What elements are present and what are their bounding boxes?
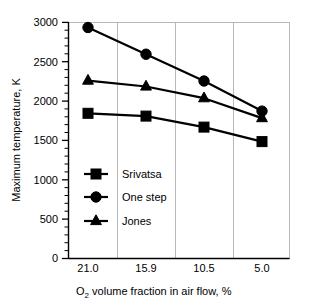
chart-legend: Srivatsa One step Jones [84,168,167,227]
x-tick-label-3: 5.0 [254,262,269,274]
y-tick-label-1000: 1000 [34,174,58,186]
y-tick-label-500: 500 [40,213,58,225]
data-point-jones-0 [83,74,94,84]
x-axis-tick-labels: 21.0 15.9 10.5 5.0 [77,262,269,274]
legend-marker-circle-icon [91,192,101,202]
legend-item-srivatsa: Srivatsa [84,168,163,180]
data-point-srivatsa-2 [199,122,209,132]
data-point-one-step-2 [199,76,209,86]
y-tick-label-3000: 3000 [34,16,58,28]
data-point-one-step-0 [83,22,93,32]
y-tick-label-2000: 2000 [34,95,58,107]
y-axis-tick-labels: 0 500 1000 1500 2000 2500 3000 [34,16,58,264]
legend-label-one-step: One step [122,191,167,203]
legend-marker-square-icon [91,169,101,179]
y-axis-major-ticks [62,22,69,258]
y-tick-label-1500: 1500 [34,134,58,146]
legend-marker-triangle-icon [91,215,102,225]
x-axis-title-rest: volume fraction in air flow, % [89,285,232,297]
data-point-one-step-1 [141,49,151,59]
x-axis-title: O2 volume fraction in air flow, % [76,285,232,300]
svg-text:O2 volume fraction in air flow: O2 volume fraction in air flow, % [76,285,232,300]
legend-label-jones: Jones [122,215,152,227]
legend-label-srivatsa: Srivatsa [122,168,163,180]
data-point-srivatsa-1 [141,111,151,121]
y-tick-label-2500: 2500 [34,56,58,68]
legend-item-one-step: One step [84,191,167,203]
data-point-srivatsa-0 [83,108,93,118]
x-tick-label-2: 10.5 [193,262,214,274]
y-axis-title: Maximum temperature, K [10,78,22,202]
y-tick-label-0: 0 [52,252,58,264]
x-tick-label-1: 15.9 [135,262,156,274]
chart-figure: 0 500 1000 1500 2000 2500 3000 21.0 15.9… [0,0,311,306]
x-tick-label-0: 21.0 [77,262,98,274]
data-point-srivatsa-3 [257,137,267,147]
line-chart: 0 500 1000 1500 2000 2500 3000 21.0 15.9… [0,0,311,306]
